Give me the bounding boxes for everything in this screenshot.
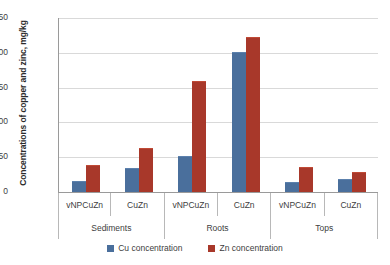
y-axis-tick-label: 250: [0, 13, 8, 22]
bar-cu: [232, 52, 246, 192]
legend-swatch-icon: [208, 245, 215, 252]
bar-cu: [178, 156, 192, 192]
bars-layer: [59, 18, 378, 192]
y-axis-tick-label: 100: [0, 117, 8, 126]
category-label: CuZn: [111, 193, 164, 216]
bar-chart: Concentrations of copper and zinc, mg/kg…: [0, 0, 390, 265]
legend-label: Cu concentration: [118, 243, 182, 253]
group-label-row: SedimentsRootsTops: [58, 216, 378, 239]
bar-zn: [192, 81, 206, 192]
category-axis: vNPCuZnCuZnvNPCuZnCuZnvNPCuZnCuZn Sedime…: [58, 192, 378, 238]
legend-item[interactable]: Zn concentration: [208, 243, 282, 253]
group-label: Roots: [165, 216, 272, 239]
category-label: vNPCuZn: [58, 193, 111, 216]
group-label: Tops: [271, 216, 378, 239]
category-label: CuZn: [325, 193, 378, 216]
category-label: vNPCuZn: [165, 193, 218, 216]
bar-zn: [86, 165, 100, 192]
category-label-row: vNPCuZnCuZnvNPCuZnCuZnvNPCuZnCuZn: [58, 193, 378, 216]
y-axis-tick-label: 200: [0, 48, 8, 57]
plot-area: [58, 18, 378, 192]
y-axis-tick-label: 0: [0, 187, 8, 196]
category-label: CuZn: [218, 193, 271, 216]
bar-cu: [338, 179, 352, 192]
bar-cu: [72, 181, 86, 192]
bar-zn: [299, 167, 313, 192]
bar-cu: [125, 168, 139, 192]
bar-zn: [139, 148, 153, 192]
bar-cu: [285, 182, 299, 192]
legend-label: Zn concentration: [219, 243, 282, 253]
legend: Cu concentrationZn concentration: [0, 243, 390, 253]
y-axis-tick-label: 150: [0, 83, 8, 92]
bar-zn: [246, 37, 260, 192]
bar-zn: [352, 172, 366, 192]
y-axis-title: Concentrations of copper and zinc, mg/kg: [18, 8, 28, 198]
legend-item[interactable]: Cu concentration: [107, 243, 182, 253]
legend-swatch-icon: [107, 245, 114, 252]
group-label: Sediments: [58, 216, 165, 239]
y-axis-tick-label: 50: [0, 152, 8, 161]
category-label: vNPCuZn: [271, 193, 324, 216]
